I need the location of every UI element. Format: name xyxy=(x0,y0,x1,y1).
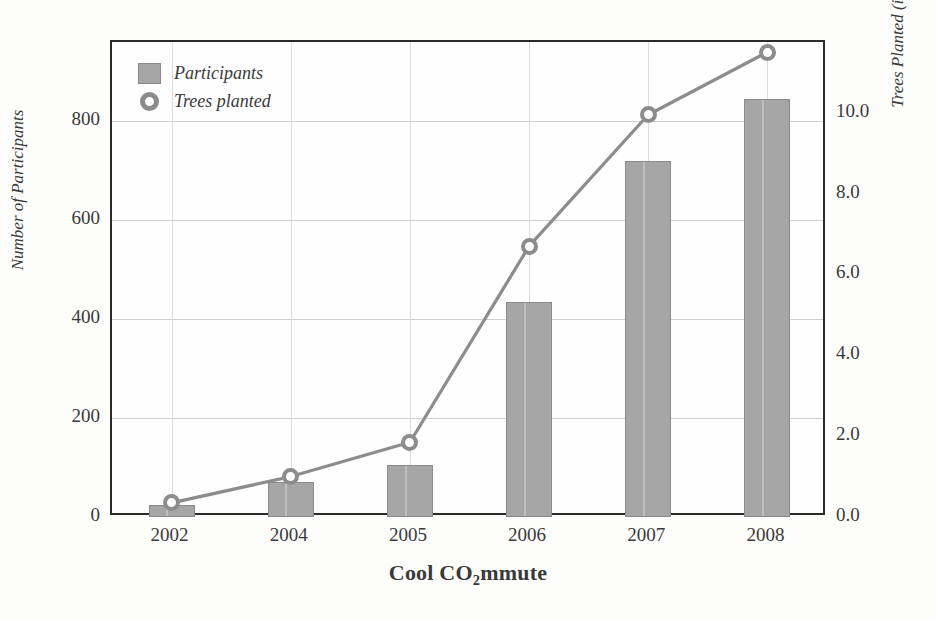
right-axis-title: Trees Planted (in thousands) xyxy=(888,0,908,160)
x-tick-label-2004: 2004 xyxy=(229,524,349,546)
participants-swatch-icon xyxy=(138,63,161,84)
marker-2006 xyxy=(521,238,538,255)
chart-legend: Participants Trees planted xyxy=(138,60,271,116)
right-tick-label: 8.0 xyxy=(836,181,898,203)
right-tick-label: 4.0 xyxy=(836,342,898,364)
legend-label-trees-planted: Trees planted xyxy=(174,91,271,112)
left-tick-label: 600 xyxy=(40,207,100,229)
chart-figure: Number of Participants Trees Planted (in… xyxy=(0,0,936,619)
right-tick-label: 10.0 xyxy=(836,100,898,122)
x-axis-title-before: Cool CO xyxy=(389,560,473,585)
legend-item-trees-planted: Trees planted xyxy=(138,88,271,114)
bar-2006 xyxy=(506,302,552,517)
right-tick-label: 2.0 xyxy=(836,423,898,445)
left-tick-label: 400 xyxy=(40,306,100,328)
left-tick-label: 0 xyxy=(40,504,100,526)
gridline-horizontal xyxy=(112,319,823,320)
bar-2007 xyxy=(625,161,671,517)
bar-2008 xyxy=(744,99,790,517)
gridline-vertical xyxy=(291,42,292,513)
left-tick-label: 200 xyxy=(40,405,100,427)
gridline-horizontal xyxy=(112,220,823,221)
marker-2008 xyxy=(759,44,776,61)
legend-item-participants: Participants xyxy=(138,60,271,86)
right-tick-label: 6.0 xyxy=(836,261,898,283)
trees-planted-ring-icon xyxy=(140,92,159,111)
marker-2007 xyxy=(640,106,657,123)
bar-2005 xyxy=(387,465,433,517)
plot-area: Participants Trees planted xyxy=(110,40,825,515)
marker-2005 xyxy=(401,434,418,451)
x-tick-label-2008: 2008 xyxy=(705,524,825,546)
x-tick-label-2007: 2007 xyxy=(586,524,706,546)
gridline-horizontal xyxy=(112,121,823,122)
x-axis-title-after: mmute xyxy=(480,560,547,585)
x-tick-label-2005: 2005 xyxy=(348,524,468,546)
bar-2004 xyxy=(268,482,314,517)
x-axis-title: Cool CO2mmute xyxy=(0,560,936,589)
x-tick-label-2002: 2002 xyxy=(110,524,230,546)
left-axis-title: Number of Participants xyxy=(8,60,28,320)
left-tick-label: 800 xyxy=(40,108,100,130)
gridline-horizontal xyxy=(112,418,823,419)
trees-planted-polyline xyxy=(172,52,768,503)
right-tick-label: 0.0 xyxy=(836,504,898,526)
legend-label-participants: Participants xyxy=(174,63,263,84)
x-tick-label-2006: 2006 xyxy=(467,524,587,546)
